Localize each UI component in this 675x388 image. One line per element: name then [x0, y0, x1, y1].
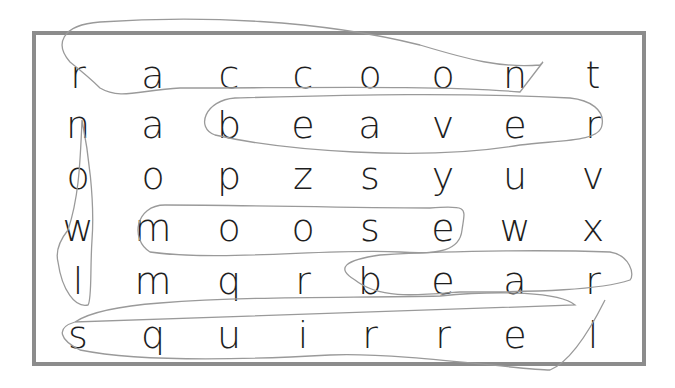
- grid-letter: e: [283, 100, 323, 150]
- grid-letter: m: [133, 203, 173, 253]
- grid-letter: a: [350, 100, 390, 150]
- grid-letter: e: [495, 310, 535, 360]
- grid-letter: u: [209, 310, 249, 360]
- grid-letter: e: [423, 256, 463, 306]
- grid-letter: w: [58, 203, 98, 253]
- grid-letter: c: [283, 50, 323, 100]
- grid-letter: r: [283, 256, 323, 306]
- grid-letter: n: [495, 50, 535, 100]
- grid-letter: o: [350, 50, 390, 100]
- grid-letter: m: [133, 256, 173, 306]
- grid-letter: o: [133, 151, 173, 201]
- grid-letter: l: [573, 310, 613, 360]
- grid-letter: c: [209, 50, 249, 100]
- grid-letter: i: [283, 310, 323, 360]
- grid-letter: p: [209, 151, 249, 201]
- grid-letter: t: [573, 50, 613, 100]
- grid-letter: n: [58, 100, 98, 150]
- puzzle-frame: [32, 31, 646, 366]
- grid-letter: z: [283, 151, 323, 201]
- grid-letter: r: [58, 50, 98, 100]
- grid-letter: o: [423, 50, 463, 100]
- grid-letter: u: [495, 151, 535, 201]
- grid-letter: a: [495, 256, 535, 306]
- grid-letter: s: [350, 151, 390, 201]
- grid-letter: b: [209, 100, 249, 150]
- grid-letter: a: [133, 50, 173, 100]
- grid-letter: q: [209, 256, 249, 306]
- grid-letter: o: [58, 151, 98, 201]
- grid-letter: r: [573, 100, 613, 150]
- grid-letter: q: [133, 310, 173, 360]
- grid-letter: w: [495, 203, 535, 253]
- grid-letter: v: [423, 100, 463, 150]
- grid-letter: s: [58, 310, 98, 360]
- grid-letter: a: [133, 100, 173, 150]
- grid-letter: r: [573, 256, 613, 306]
- grid-letter: y: [423, 151, 463, 201]
- grid-letter: r: [350, 310, 390, 360]
- grid-letter: o: [209, 203, 249, 253]
- grid-letter: x: [573, 203, 613, 253]
- grid-letter: o: [283, 203, 323, 253]
- grid-letter: l: [58, 256, 98, 306]
- grid-letter: v: [573, 151, 613, 201]
- grid-letter: e: [495, 100, 535, 150]
- grid-letter: r: [423, 310, 463, 360]
- grid-letter: b: [350, 256, 390, 306]
- grid-letter: s: [350, 203, 390, 253]
- grid-letter: e: [423, 203, 463, 253]
